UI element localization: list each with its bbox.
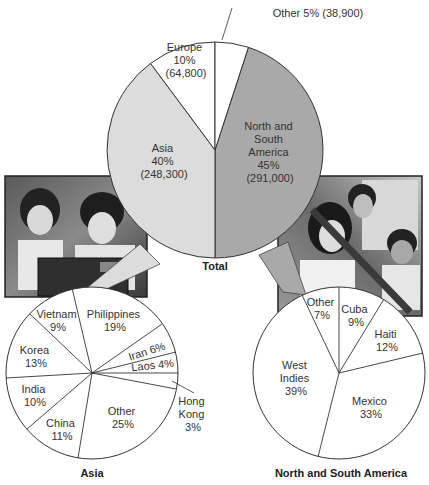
asia-other-label: Other 25%: [108, 405, 139, 430]
asia-india-label: India 10%: [22, 383, 49, 408]
asia-title: Asia: [80, 467, 104, 479]
total-title: Total: [202, 260, 227, 272]
total-other-label: Other 5% (38,900): [273, 7, 364, 19]
america-title: North and South America: [275, 467, 408, 479]
total-pie: [107, 8, 323, 258]
asia-hongkong-label: Hong Kong 3%: [178, 395, 207, 433]
immigration-pie-charts: Other 5% (38,900) Europe 10% (64,800) As…: [0, 0, 429, 485]
america-haiti-label: Haiti 12%: [374, 328, 399, 353]
total-america-label: North and South America 45% (291,000): [244, 120, 295, 184]
